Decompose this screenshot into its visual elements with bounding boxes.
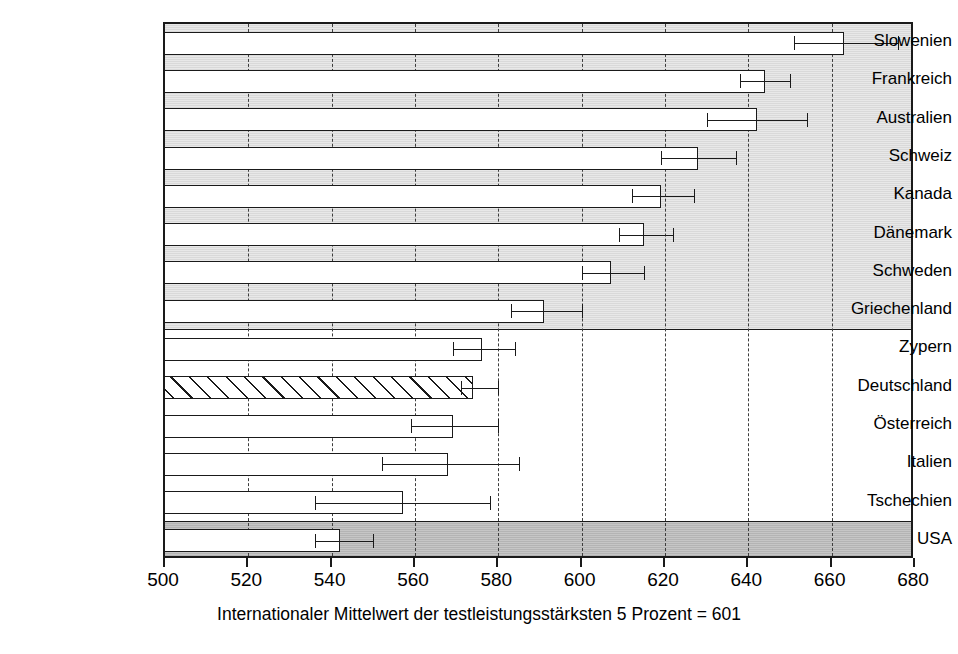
x-tick-580 xyxy=(496,558,498,567)
gridline-660 xyxy=(832,24,833,556)
category-label-italien: Italien xyxy=(800,453,958,470)
error-cap-low-zypern xyxy=(453,342,454,356)
bar-usa xyxy=(163,529,340,552)
error-cap-high-tschechien xyxy=(490,496,491,510)
gridline-540 xyxy=(332,24,333,556)
category-label-usa: USA xyxy=(800,530,958,547)
category-label-slowenien: Slowenien xyxy=(800,32,958,49)
bar-österreich xyxy=(163,415,453,438)
error-cap-low-griechenland xyxy=(511,304,512,318)
bar-frankreich xyxy=(163,70,765,93)
x-tick-label-520: 520 xyxy=(211,570,281,589)
x-tick-label-600: 600 xyxy=(545,570,615,589)
error-cap-high-schweiz xyxy=(736,151,737,165)
x-tick-label-560: 560 xyxy=(378,570,448,589)
x-tick-520 xyxy=(246,558,248,567)
x-tick-label-620: 620 xyxy=(628,570,698,589)
x-tick-label-580: 580 xyxy=(461,570,531,589)
x-axis: 500520540560580600620640660680 xyxy=(163,558,913,559)
error-cap-low-österreich xyxy=(411,419,412,433)
bar-kanada xyxy=(163,185,661,208)
bar-schweiz xyxy=(163,147,698,170)
category-label-griechenland: Griechenland xyxy=(800,300,958,317)
error-cap-low-dänemark xyxy=(619,228,620,242)
error-cap-high-italien xyxy=(519,457,520,471)
error-bar-dänemark xyxy=(619,235,673,236)
category-label-deutschland: Deutschland xyxy=(800,377,958,394)
error-cap-low-kanada xyxy=(632,189,633,203)
category-label-dänemark: Dänemark xyxy=(800,224,958,241)
gridline-520 xyxy=(248,24,249,556)
x-tick-600 xyxy=(580,558,582,567)
gridline-620 xyxy=(665,24,666,556)
bar-deutschland xyxy=(163,376,473,399)
error-cap-low-schweden xyxy=(582,266,583,280)
category-label-zypern: Zypern xyxy=(800,338,958,355)
error-cap-high-deutschland xyxy=(498,381,499,395)
error-cap-high-österreich xyxy=(498,419,499,433)
bar-slowenien xyxy=(163,32,844,55)
x-tick-500 xyxy=(163,558,165,567)
axis-caption: Internationaler Mittelwert der testleist… xyxy=(0,604,958,624)
bar-australien xyxy=(163,108,757,131)
error-bar-schweiz xyxy=(661,158,736,159)
bar-schweden xyxy=(163,261,611,284)
error-bar-tschechien xyxy=(315,503,490,504)
gridline-600 xyxy=(582,24,583,556)
x-tick-label-680: 680 xyxy=(878,570,948,589)
error-bar-australien xyxy=(707,120,807,121)
error-cap-low-australien xyxy=(707,113,708,127)
bar-griechenland xyxy=(163,300,544,323)
gridline-560 xyxy=(415,24,416,556)
error-bar-griechenland xyxy=(511,311,582,312)
error-cap-high-zypern xyxy=(515,342,516,356)
category-label-schweiz: Schweiz xyxy=(800,147,958,164)
category-label-schweden: Schweden xyxy=(800,262,958,279)
error-bar-italien xyxy=(382,464,520,465)
category-label-frankreich: Frankreich xyxy=(800,70,958,87)
error-cap-high-kanada xyxy=(694,189,695,203)
error-cap-low-schweiz xyxy=(661,151,662,165)
error-cap-low-frankreich xyxy=(740,74,741,88)
x-tick-label-540: 540 xyxy=(295,570,365,589)
x-tick-540 xyxy=(330,558,332,567)
x-tick-label-640: 640 xyxy=(711,570,781,589)
x-tick-label-660: 660 xyxy=(795,570,865,589)
error-cap-high-usa xyxy=(373,534,374,548)
error-cap-high-dänemark xyxy=(673,228,674,242)
x-tick-label-500: 500 xyxy=(128,570,198,589)
category-label-kanada: Kanada xyxy=(800,185,958,202)
gridline-640 xyxy=(748,24,749,556)
x-tick-640 xyxy=(746,558,748,567)
error-cap-high-frankreich xyxy=(790,74,791,88)
error-bar-frankreich xyxy=(740,81,790,82)
x-tick-560 xyxy=(413,558,415,567)
chart-figure: SlowenienFrankreichAustralienSchweizKana… xyxy=(0,0,958,654)
gridline-580 xyxy=(498,24,499,556)
bar-dänemark xyxy=(163,223,644,246)
category-label-australien: Australien xyxy=(800,109,958,126)
x-tick-620 xyxy=(663,558,665,567)
error-cap-high-griechenland xyxy=(582,304,583,318)
error-bar-deutschland xyxy=(461,388,499,389)
category-label-österreich: Österreich xyxy=(800,415,958,432)
x-tick-680 xyxy=(913,558,915,567)
error-cap-low-slowenien xyxy=(794,36,795,50)
error-bar-zypern xyxy=(453,349,516,350)
plot-area xyxy=(163,22,913,558)
error-bar-usa xyxy=(315,541,373,542)
error-cap-low-tschechien xyxy=(315,496,316,510)
error-cap-low-deutschland xyxy=(461,381,462,395)
error-bar-kanada xyxy=(632,196,695,197)
bar-zypern xyxy=(163,338,482,361)
error-cap-low-usa xyxy=(315,534,316,548)
x-tick-660 xyxy=(830,558,832,567)
category-label-tschechien: Tschechien xyxy=(800,492,958,509)
error-bar-schweden xyxy=(582,273,645,274)
error-bar-österreich xyxy=(411,426,499,427)
error-cap-high-schweden xyxy=(644,266,645,280)
error-cap-low-italien xyxy=(382,457,383,471)
